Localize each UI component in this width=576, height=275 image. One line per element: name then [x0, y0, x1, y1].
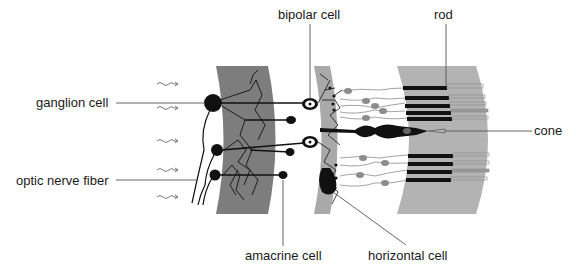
rod-fibers [340, 88, 408, 186]
light-ray-icons [157, 82, 178, 199]
ganglion-cells [204, 94, 223, 181]
inner-plexiform-layer [216, 66, 276, 214]
optic-nerve-fibers [192, 110, 214, 205]
amacrine-cells [279, 116, 297, 179]
label-ganglion-cell: ganglion cell [36, 96, 108, 109]
label-rod: rod [434, 8, 453, 21]
label-optic-nerve-fiber: optic nerve fiber [16, 174, 109, 187]
retina-diagram: ganglion cell optic nerve fiber bipolar … [0, 0, 576, 275]
bipolar-cells [302, 98, 318, 148]
label-amacrine-cell: amacrine cell [245, 249, 322, 262]
retina-illustration [0, 0, 576, 275]
label-bipolar-cell: bipolar cell [278, 8, 340, 21]
cone-nucleus [403, 128, 411, 134]
label-cone: cone [534, 124, 562, 137]
label-horizontal-cell: horizontal cell [368, 249, 448, 262]
